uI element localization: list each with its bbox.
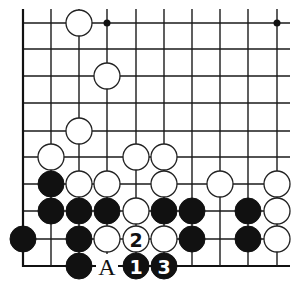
white-stone [151,226,177,252]
black-stone [10,226,36,252]
white-stone [94,226,120,252]
star-point-icon [104,20,111,27]
black-stone [179,198,205,224]
white-stone [123,144,149,170]
white-stone [264,226,290,252]
star-point-icon [274,20,281,27]
black-stone [235,198,261,224]
white-stone [66,10,92,36]
white-stone [66,118,92,144]
go-board-diagram: 213 A [0,0,293,286]
white-stone [38,144,64,170]
black-stone [66,253,92,279]
white-stone [123,198,149,224]
white-stone [207,171,233,197]
white-stone [94,171,120,197]
black-stone [66,226,92,252]
black-stone-move-3: 3 [151,253,177,279]
black-stone [179,226,205,252]
point-labels: A [96,254,118,280]
black-stone-move-1: 1 [123,253,149,279]
black-stone [38,198,64,224]
go-board: 213 A [0,0,293,286]
move-number: 2 [129,229,142,251]
move-number: 3 [157,256,170,278]
point-label-A: A [98,254,116,280]
white-stone [151,171,177,197]
white-stone [264,198,290,224]
white-stone [264,171,290,197]
black-stone [151,198,177,224]
move-number: 1 [129,256,142,278]
white-stone-move-2: 2 [123,226,149,252]
white-stone [66,171,92,197]
white-stone [94,63,120,89]
black-stone [94,198,120,224]
black-stone [235,226,261,252]
black-stone [66,198,92,224]
black-stone [38,171,64,197]
white-stone [151,144,177,170]
